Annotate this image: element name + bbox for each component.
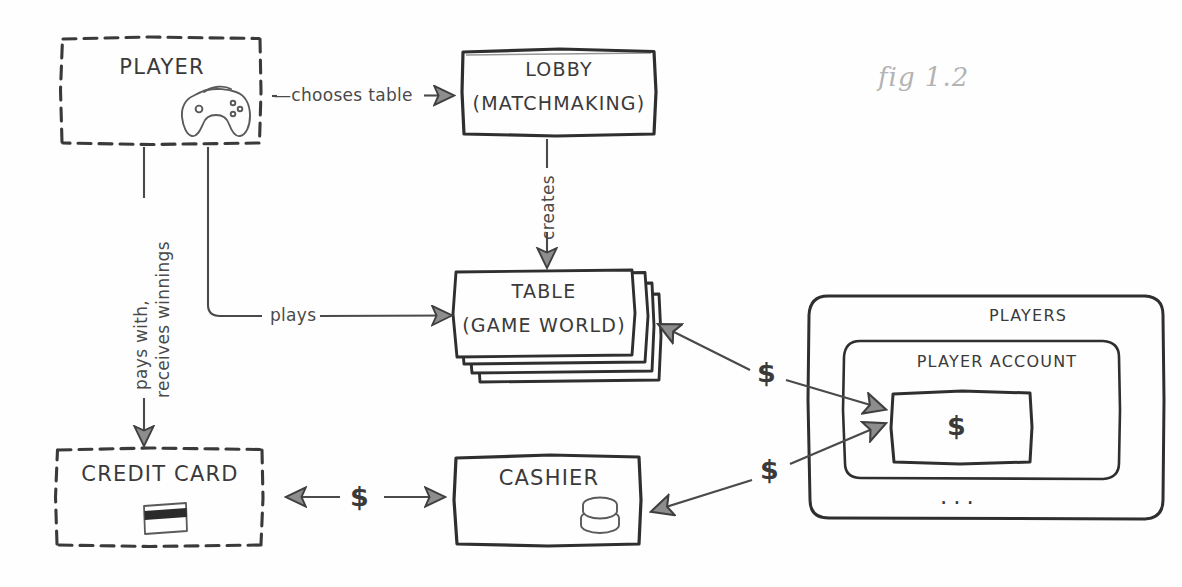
- account-balance-node[interactable]: [891, 391, 1033, 465]
- table-node[interactable]: [453, 270, 636, 358]
- edge-chooses-table: [272, 95, 452, 96]
- edge-plays: [208, 147, 450, 316]
- lobby-node[interactable]: [461, 49, 657, 137]
- cashier-node[interactable]: [454, 455, 642, 547]
- credit-card-node[interactable]: [55, 448, 264, 547]
- player-node[interactable]: [60, 37, 262, 145]
- diagram-canvas: PLAYER LOBBY (MATCHMAKING) TABLE (GAME W…: [0, 0, 1182, 587]
